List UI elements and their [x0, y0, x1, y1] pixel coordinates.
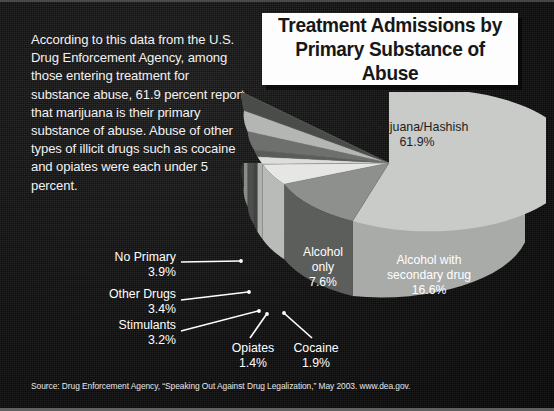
- slice-wall-opiates: [254, 150, 257, 232]
- title-plate: Treatment Admissions by Primary Substanc…: [262, 13, 518, 85]
- top-border: [0, 0, 554, 2]
- source-citation: Source: Drug Enforcement Agency, “Speaki…: [31, 381, 531, 392]
- callout-stimulants: Stimulants 3.2%: [78, 318, 176, 349]
- callout-other-drugs-name: Other Drugs: [72, 287, 176, 302]
- callout-no-primary-name: No Primary: [72, 250, 176, 265]
- pie-chart-svg: [226, 92, 546, 354]
- callout-opiates-name: Opiates: [222, 341, 284, 356]
- callout-cocaine-name: Cocaine: [284, 341, 348, 356]
- title-line-1: Treatment Admissions by: [271, 13, 509, 37]
- pie-chart: [226, 92, 546, 354]
- slice-wall-cocaine: [257, 157, 262, 240]
- page-title: Treatment Admissions by Primary Substanc…: [271, 13, 509, 85]
- callout-cocaine: Cocaine 1.9%: [284, 341, 348, 372]
- callout-opiates: Opiates 1.4%: [222, 341, 284, 372]
- callout-no-primary: No Primary 3.9%: [72, 250, 176, 281]
- callout-cocaine-value: 1.9%: [284, 356, 348, 371]
- callout-other-drugs-value: 3.4%: [72, 302, 176, 317]
- callout-opiates-value: 1.4%: [222, 356, 284, 371]
- description-paragraph: According to this data from the U.S. Dru…: [31, 31, 246, 195]
- callout-no-primary-value: 3.9%: [72, 265, 176, 280]
- infographic-page: According to this data from the U.S. Dru…: [0, 0, 554, 411]
- title-line-2: Primary Substance of Abuse: [271, 37, 509, 85]
- callout-stimulants-value: 3.2%: [78, 333, 176, 348]
- callout-stimulants-name: Stimulants: [78, 318, 176, 333]
- callout-other-drugs: Other Drugs 3.4%: [72, 287, 176, 318]
